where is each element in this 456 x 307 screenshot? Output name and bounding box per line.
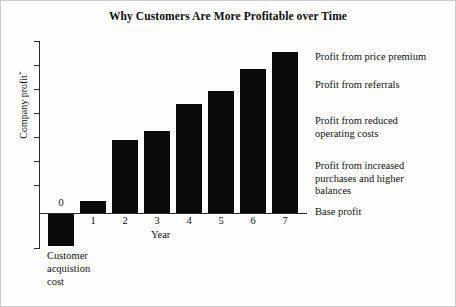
chart-figure: Why Customers Are More Profitable over T… <box>0 0 456 307</box>
note-customer-acquisition-cost-line1: Customer <box>47 249 137 262</box>
annotation-increased-purchases-line3: balances <box>315 185 455 198</box>
x-tick-label-7: 7 <box>272 215 298 226</box>
y-axis-line <box>39 41 40 249</box>
annotation-reduced-operating-costs-line1: Profit from reduced <box>315 115 455 128</box>
note-customer-acquisition-cost-line3: cost <box>47 275 137 288</box>
x-tick-label-4: 4 <box>176 215 202 226</box>
x-tick-label-6: 6 <box>240 215 266 226</box>
y-axis-tick-2 <box>34 89 40 90</box>
y-axis-title-text: Company profit <box>18 75 29 139</box>
x-tick-label-2: 2 <box>112 215 138 226</box>
x-tick-label-3: 3 <box>144 215 170 226</box>
plot-area: 0 1 2 3 4 5 6 7 Year Company profit* Pro… <box>1 1 456 307</box>
bar-year-6 <box>240 69 266 213</box>
x-axis-line <box>39 213 307 214</box>
annotation-price-premium: Profit from price premium <box>315 51 455 64</box>
x-tick-label-0: 0 <box>48 197 74 208</box>
bar-year-2 <box>112 140 138 213</box>
bar-year-4 <box>176 104 202 213</box>
annotation-referrals: Profit from referrals <box>315 79 455 92</box>
x-tick-label-5: 5 <box>208 215 234 226</box>
annotation-reduced-operating-costs-line2: operating costs <box>315 128 455 141</box>
y-axis-bottom-cap <box>34 248 40 249</box>
annotation-increased-purchases-line2: purchases and higher <box>315 173 455 186</box>
y-axis-tick-3 <box>34 113 40 114</box>
note-customer-acquisition-cost: Customer acquistion cost <box>47 249 137 288</box>
y-axis-title: Company profit* <box>17 45 29 165</box>
y-axis-tick-5 <box>34 161 40 162</box>
bar-year-0 <box>48 214 74 246</box>
annotation-increased-purchases-line1: Profit from increased <box>315 160 455 173</box>
note-customer-acquisition-cost-line2: acquistion <box>47 262 137 275</box>
y-axis-tick-1 <box>34 65 40 66</box>
annotation-base-profit: Base profit <box>315 206 455 219</box>
y-axis-top-cap <box>34 41 40 42</box>
annotation-increased-purchases: Profit from increased purchases and high… <box>315 160 455 198</box>
bar-year-7 <box>272 52 298 213</box>
bar-year-1 <box>80 201 106 213</box>
x-axis-title: Year <box>151 229 170 240</box>
bar-year-5 <box>208 91 234 213</box>
y-axis-tick-4 <box>34 137 40 138</box>
annotation-reduced-operating-costs: Profit from reduced operating costs <box>315 115 455 140</box>
y-axis-tick-6 <box>34 185 40 186</box>
bar-year-3 <box>144 131 170 213</box>
x-tick-label-1: 1 <box>80 215 106 226</box>
y-axis-title-footnote-marker: * <box>17 72 25 76</box>
